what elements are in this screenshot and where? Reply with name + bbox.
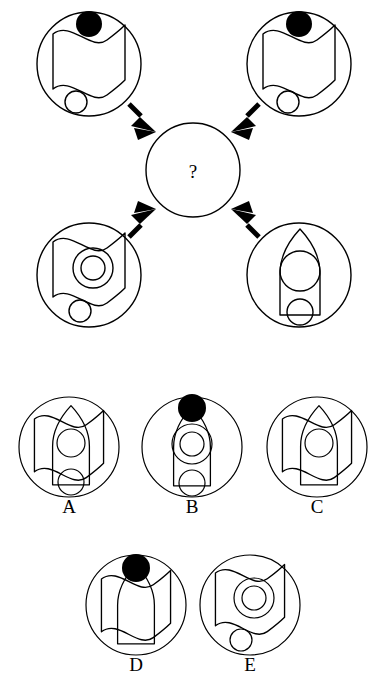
black-dot-icon [178,394,206,422]
cell-outer-circle [247,223,351,327]
puzzle-canvas: ? [0,0,385,697]
concentric-inner-circle-icon [242,586,266,610]
matrix-cell-top-left [37,11,141,116]
arrow-top-right-to-center [231,104,259,140]
wavy-flag-icon [53,233,125,306]
answer-option-d[interactable] [86,554,186,655]
arrow-top-left-to-center [129,104,156,140]
answer-options-group [19,394,367,655]
concentric-inner-circle-icon [81,256,105,280]
option-label-c: C [297,497,337,516]
wavy-flag-icon [282,410,351,480]
large-circle-icon [280,251,320,291]
arrow-bottom-left-to-center [129,201,156,237]
concentric-outer-circle-icon [172,424,212,464]
large-circle-icon [57,429,85,457]
small-circle-icon [287,299,313,325]
large-circle-icon [305,429,333,457]
small-circle-icon [230,629,252,651]
question-mark-label: ? [189,161,197,182]
concentric-outer-circle-icon [73,248,113,288]
option-label-d: D [116,655,156,674]
matrix-cell-bottom-right [247,223,351,327]
bullet-shape-icon [280,229,320,315]
black-dot-icon [286,11,312,37]
small-circle-icon [65,91,87,113]
matrix-group: ? [37,11,351,327]
answer-option-c[interactable] [267,397,367,497]
black-dot-icon [122,554,150,582]
small-circle-icon [277,91,299,113]
small-circle-icon [58,469,84,495]
black-dot-icon [76,11,102,37]
concentric-inner-circle-icon [180,432,204,456]
concentric-outer-circle-icon [234,578,274,618]
option-label-a: A [49,497,89,516]
puzzle-svg: ? [0,0,385,697]
answer-option-e[interactable] [200,555,300,655]
answer-option-a[interactable] [19,397,119,497]
answer-option-b[interactable] [142,394,242,497]
wavy-flag-icon [34,410,103,480]
small-circle-icon [69,300,91,322]
option-label-e: E [230,655,270,674]
small-circle-icon [179,470,205,496]
arrow-bottom-right-to-center [231,201,259,237]
option-label-b: B [172,497,212,516]
matrix-cell-top-right [247,11,351,116]
matrix-center-unknown: ? [146,123,240,217]
matrix-cell-bottom-left [37,223,141,327]
